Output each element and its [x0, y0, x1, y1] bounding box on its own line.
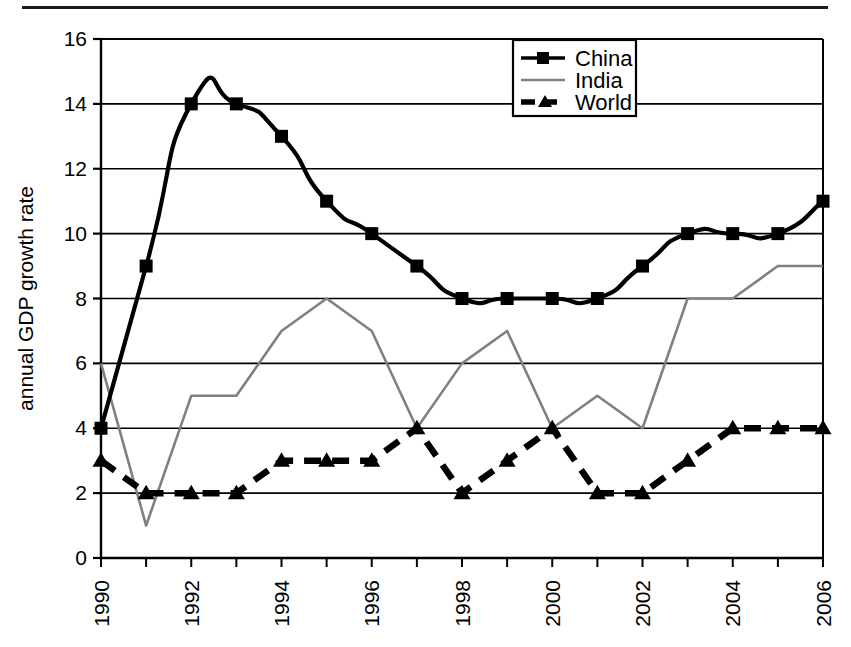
x-tick-label: 2006 [812, 580, 835, 627]
line-chart: 0246810121416199019921994199619982000200… [0, 0, 851, 647]
data-point-square [140, 260, 153, 273]
data-point-square [726, 227, 739, 240]
data-point-square [320, 195, 333, 208]
data-point-square [501, 292, 514, 305]
series-line-world [101, 428, 823, 493]
x-tick-label: 1996 [360, 580, 383, 627]
legend-marker-square [537, 52, 549, 64]
y-tick-label: 16 [64, 27, 87, 50]
legend: ChinaIndiaWorld [513, 40, 636, 116]
data-point-square [456, 292, 469, 305]
data-point-triangle [93, 452, 110, 467]
y-tick-label: 12 [64, 157, 87, 180]
data-point-square [410, 260, 423, 273]
data-point-square [365, 227, 378, 240]
x-tick-label: 2004 [721, 580, 744, 627]
series-markers-china [95, 97, 830, 434]
data-point-square [546, 292, 559, 305]
data-point-square [636, 260, 649, 273]
data-point-square [275, 130, 288, 143]
y-tick-label: 0 [75, 546, 87, 569]
data-point-triangle [679, 452, 696, 467]
y-axis-ticks: 0246810121416 [64, 27, 101, 569]
series-line-china [101, 78, 823, 429]
y-axis-title: annual GDP growth rate [14, 186, 37, 411]
y-tick-label: 6 [75, 351, 87, 374]
data-point-triangle [724, 420, 741, 435]
data-point-square [230, 97, 243, 110]
y-tick-label: 14 [64, 92, 88, 115]
y-tick-label: 10 [64, 222, 87, 245]
x-tick-label: 1994 [270, 580, 293, 627]
data-point-square [681, 227, 694, 240]
x-tick-label: 1998 [451, 580, 474, 627]
x-tick-label: 2000 [541, 580, 564, 627]
y-tick-label: 4 [75, 416, 87, 439]
gridlines [101, 39, 823, 493]
x-tick-label: 1990 [90, 580, 113, 627]
data-point-triangle [544, 420, 561, 435]
data-point-square [771, 227, 784, 240]
x-tick-label: 1992 [180, 580, 203, 627]
chart-figure: 0246810121416199019921994199619982000200… [0, 0, 851, 647]
series-markers-world [93, 420, 832, 499]
x-tick-label: 2002 [631, 580, 654, 627]
series-world [93, 420, 832, 499]
y-tick-label: 8 [75, 287, 87, 310]
series-china [95, 78, 830, 435]
y-tick-label: 2 [75, 481, 87, 504]
legend-label-world: World [575, 90, 632, 115]
data-point-square [817, 195, 830, 208]
data-point-square [591, 292, 604, 305]
x-axis-ticks: 199019921994199619982000200220042006 [90, 558, 835, 627]
data-point-triangle [815, 420, 832, 435]
data-point-square [95, 422, 108, 435]
data-point-square [185, 97, 198, 110]
